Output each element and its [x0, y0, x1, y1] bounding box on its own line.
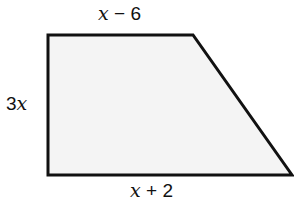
left-label-variable: x	[17, 92, 28, 114]
top-label-variable: x	[98, 2, 109, 24]
bottom-label-number: 2	[162, 180, 173, 201]
bottom-label-operator: +	[141, 180, 163, 201]
left-side-label: 3x	[6, 94, 27, 113]
top-label-operator: −	[109, 3, 131, 24]
trapezoid-figure	[0, 0, 294, 206]
bottom-label-variable: x	[130, 179, 141, 201]
bottom-side-label: x + 2	[130, 181, 173, 200]
left-label-number: 3	[6, 93, 17, 114]
top-side-label: x − 6	[98, 4, 141, 23]
trapezoid-shape	[48, 35, 292, 175]
top-label-number: 6	[130, 3, 141, 24]
